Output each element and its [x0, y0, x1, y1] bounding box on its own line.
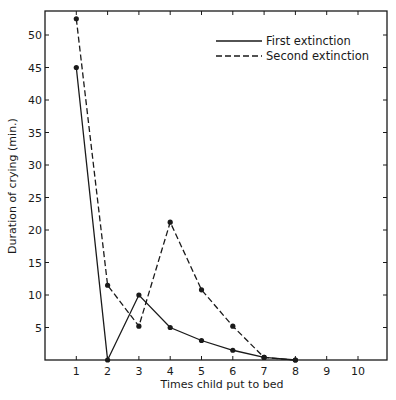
- data-point-marker: [105, 357, 110, 362]
- second-extinction-line: [76, 19, 295, 360]
- data-point-marker: [199, 287, 204, 292]
- x-tick-label: 9: [323, 365, 330, 378]
- data-point-marker: [199, 338, 204, 343]
- data-point-marker: [230, 324, 235, 329]
- y-tick-label: 10: [28, 289, 42, 302]
- x-tick-label: 10: [351, 365, 365, 378]
- y-tick-label: 50: [28, 29, 42, 42]
- data-point-marker: [74, 16, 79, 21]
- x-tick-label: 6: [229, 365, 236, 378]
- data-point-marker: [262, 355, 267, 360]
- data-point-marker: [168, 220, 173, 225]
- legend-second-extinction: Second extinction: [266, 49, 369, 63]
- data-point-marker: [136, 292, 141, 297]
- x-tick-label: 8: [292, 365, 299, 378]
- y-tick-label: 30: [28, 159, 42, 172]
- y-tick-label: 40: [28, 94, 42, 107]
- y-tick-label: 20: [28, 224, 42, 237]
- y-tick-label: 5: [35, 322, 42, 335]
- line-chart: 12345678910 5101520253035404550 First ex…: [0, 0, 396, 400]
- first-extinction-line: [76, 68, 295, 361]
- y-tick-label: 35: [28, 127, 42, 140]
- x-tick-label: 1: [73, 365, 80, 378]
- x-tick-label: 4: [167, 365, 174, 378]
- data-point-marker: [230, 348, 235, 353]
- data-point-marker: [293, 357, 298, 362]
- data-point-marker: [136, 324, 141, 329]
- series-lines: [74, 16, 298, 362]
- x-tick-label: 2: [104, 365, 111, 378]
- y-tick-label: 45: [28, 62, 42, 75]
- y-tick-label: 15: [28, 257, 42, 270]
- x-tick-label: 5: [198, 365, 205, 378]
- x-tick-label: 3: [135, 365, 142, 378]
- legend-first-extinction: First extinction: [266, 34, 351, 48]
- x-axis-title: Times child put to bed: [160, 378, 284, 391]
- data-point-marker: [74, 65, 79, 70]
- data-point-marker: [168, 325, 173, 330]
- legend: First extinction Second extinction: [216, 34, 369, 63]
- x-axis-ticks: 12345678910: [73, 11, 365, 378]
- y-axis-title: Duration of crying (min.): [6, 118, 19, 254]
- data-point-marker: [105, 283, 110, 288]
- y-axis-ticks: 5101520253035404550: [28, 29, 387, 335]
- y-tick-label: 25: [28, 192, 42, 205]
- x-tick-label: 7: [261, 365, 268, 378]
